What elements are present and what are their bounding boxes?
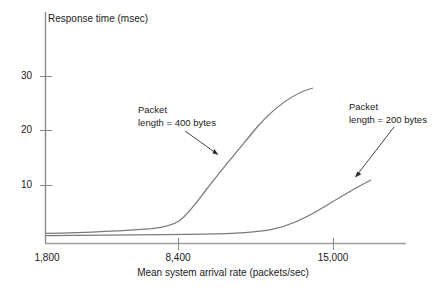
chart-plot-area <box>0 0 446 290</box>
annotation-packet-200-line-2: length = 200 bytes <box>349 114 427 127</box>
chart-figure: Response time (msec) Mean system arrival… <box>0 0 446 290</box>
series-line-packet-200 <box>46 180 371 236</box>
annotation-arrowhead-packet-400 <box>213 149 219 155</box>
annotation-packet-200-line-1: Packet <box>349 101 427 114</box>
x-tick-label-8400: 8,400 <box>148 252 208 263</box>
y-axis-title: Response time (msec) <box>48 13 148 25</box>
y-tick-label-30: 30 <box>6 70 32 81</box>
annotation-packet-400-line-1: Packet <box>138 104 216 117</box>
annotation-label-packet-400: Packet length = 400 bytes <box>138 104 216 129</box>
annotation-packet-400-line-2: length = 400 bytes <box>138 117 216 130</box>
annotation-label-packet-200: Packet length = 200 bytes <box>349 101 427 126</box>
x-axis-title: Mean system arrival rate (packets/sec) <box>0 267 446 279</box>
y-tick-label-10: 10 <box>6 179 32 190</box>
y-tick-label-20: 20 <box>6 124 32 135</box>
annotation-arrowhead-packet-200 <box>355 172 361 178</box>
annotation-arrow-packet-400 <box>185 131 217 154</box>
annotation-arrow-packet-200 <box>357 127 394 175</box>
x-tick-label-1800: 1,800 <box>17 252 77 263</box>
x-tick-label-15000: 15,000 <box>303 252 363 263</box>
